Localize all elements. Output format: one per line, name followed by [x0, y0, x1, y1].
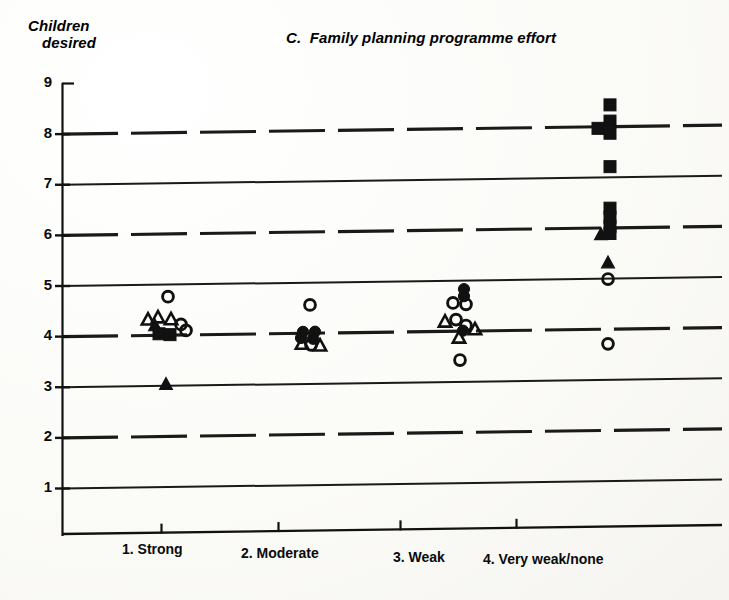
y-axis-tick-label-4: 4: [30, 326, 52, 343]
data-point-3-3-open-circle: [448, 298, 459, 309]
y-axis-tick-label-8: 8: [30, 124, 52, 141]
y-axis-tick-label-3: 3: [30, 377, 52, 394]
plot-canvas: [0, 0, 729, 600]
y-axis-tick-label-6: 6: [30, 225, 52, 242]
gridline-y5: [62, 277, 722, 286]
x-axis-tick-label-3: 3. Weak: [393, 549, 445, 565]
data-point-1-10-filled-triangle: [160, 378, 173, 390]
data-point-3-11-open-circle: [455, 355, 466, 366]
y-axis-tick-label-9: 9: [30, 73, 52, 90]
gridline-y7: [62, 176, 722, 185]
data-point-4-3-filled-square: [592, 122, 604, 134]
data-point-4-2-filled-square: [604, 115, 616, 127]
data-point-3-6-open-triangle: [439, 315, 451, 326]
gridline-y2: [62, 429, 722, 438]
data-point-4-5-filled-square: [604, 161, 616, 173]
gridline-y8: [62, 125, 722, 134]
y-axis-tick-label-1: 1: [30, 478, 52, 495]
x-axis-tick-label-4: 4. Very weak/none: [483, 551, 604, 567]
x-axis-tick-label-2: 2. Moderate: [241, 545, 319, 561]
data-point-4-11-filled-triangle: [602, 256, 615, 268]
y-axis-tick-label-5: 5: [30, 276, 52, 293]
gridline-y6: [62, 226, 722, 235]
data-point-4-1-filled-square: [604, 99, 616, 111]
data-point-1-9-filled-square: [164, 329, 176, 341]
data-point-1-1-open-circle: [163, 291, 174, 302]
y-axis-tick-label-7: 7: [30, 174, 52, 191]
y-axis-tick-label-2: 2: [30, 427, 52, 444]
x-axis-tick-label-1: 1. Strong: [122, 541, 183, 557]
data-point-4-13-open-circle: [603, 338, 614, 349]
gridline-y1: [62, 480, 722, 489]
data-point-2-1-open-circle: [305, 299, 316, 310]
chart-figure: Childrendesired C. Family planning progr…: [0, 0, 729, 600]
data-point-4-4-filled-square: [604, 127, 616, 139]
data-point-1-8-filled-square: [153, 328, 165, 340]
